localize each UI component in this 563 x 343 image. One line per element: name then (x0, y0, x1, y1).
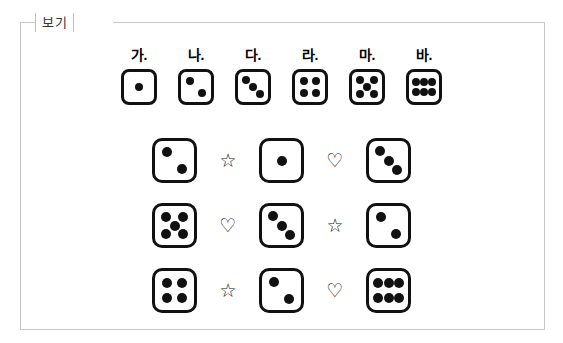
die-pip (373, 293, 383, 303)
die-pip (285, 230, 295, 240)
caption-tick-left (35, 13, 36, 32)
caption-group: 보기 (35, 12, 74, 33)
die-face-1 (259, 138, 304, 183)
die-pip (300, 89, 308, 97)
die-pip (268, 211, 278, 221)
die-pip (177, 293, 187, 303)
die-pip (256, 90, 264, 98)
die-pip (162, 278, 172, 288)
heart-outline-icon: ♡ (322, 151, 348, 170)
equation-row-1: ☆♡ (0, 138, 563, 183)
reference-item-label: 라. (302, 48, 319, 62)
equation-rows: ☆♡♡☆☆♡ (0, 138, 563, 313)
die-pip (420, 78, 428, 86)
die-pip (384, 293, 394, 303)
die-face-2 (366, 203, 411, 248)
die-pip (161, 229, 171, 239)
die-pip (370, 90, 378, 98)
die-pip (277, 156, 287, 166)
die-pip (162, 293, 172, 303)
caption-tick-right (73, 13, 74, 32)
die-pip (242, 76, 250, 84)
die-pip (300, 77, 308, 85)
die-pip (178, 212, 188, 222)
heart-outline-icon: ♡ (322, 281, 348, 300)
die-pip (135, 83, 143, 91)
reference-item-label: 다. (245, 48, 262, 62)
reference-item-6: 바. (406, 48, 442, 105)
die-pip (249, 83, 257, 91)
reference-item-5: 마. (349, 48, 385, 105)
reference-item-label: 나. (188, 48, 205, 62)
die-pip (370, 76, 378, 84)
die-pip (384, 156, 394, 166)
die-face-3 (259, 203, 304, 248)
die-pip (312, 89, 320, 97)
die-face-4 (292, 69, 328, 105)
die-pip (177, 278, 187, 288)
die-face-6 (366, 268, 411, 313)
die-pip (312, 77, 320, 85)
die-face-1 (121, 69, 157, 105)
die-face-3 (366, 138, 411, 183)
heart-outline-icon: ♡ (215, 216, 241, 235)
die-pip (186, 77, 194, 85)
die-pip (376, 212, 386, 222)
die-face-4 (152, 268, 197, 313)
die-pip (392, 165, 402, 175)
die-pip (384, 278, 394, 288)
die-pip (412, 88, 420, 96)
die-face-3 (235, 69, 271, 105)
star-outline-icon: ☆ (215, 281, 241, 300)
die-pip (284, 294, 294, 304)
die-face-2 (152, 138, 197, 183)
die-pip (178, 229, 188, 239)
die-pip (391, 229, 401, 239)
reference-item-3: 다. (235, 48, 271, 105)
die-pip (162, 147, 172, 157)
die-face-2 (178, 69, 214, 105)
die-pip (373, 278, 383, 288)
die-face-5 (152, 203, 197, 248)
die-face-2 (259, 268, 304, 313)
equation-row-2: ♡☆ (0, 203, 563, 248)
die-pip (394, 293, 404, 303)
die-pip (269, 277, 279, 287)
die-face-6 (406, 69, 442, 105)
reference-item-label: 바. (416, 48, 433, 62)
die-pip (428, 78, 436, 86)
equation-row-3: ☆♡ (0, 268, 563, 313)
die-pip (375, 146, 385, 156)
reference-dice-row: 가.나.다.라.마.바. (0, 48, 563, 105)
die-pip (198, 89, 206, 97)
reference-item-2: 나. (178, 48, 214, 105)
reference-item-1: 가. (121, 48, 157, 105)
star-outline-icon: ☆ (322, 216, 348, 235)
die-pip (420, 88, 428, 96)
die-pip (394, 278, 404, 288)
legend-caption: 보기 (42, 16, 67, 29)
die-pip (428, 88, 436, 96)
star-outline-icon: ☆ (215, 151, 241, 170)
die-pip (170, 221, 180, 231)
die-face-5 (349, 69, 385, 105)
reference-item-4: 라. (292, 48, 328, 105)
die-pip (177, 164, 187, 174)
die-pip (277, 221, 287, 231)
die-pip (412, 78, 420, 86)
die-pip (161, 212, 171, 222)
reference-item-label: 마. (359, 48, 376, 62)
reference-item-label: 가. (131, 48, 148, 62)
die-pip (356, 90, 364, 98)
